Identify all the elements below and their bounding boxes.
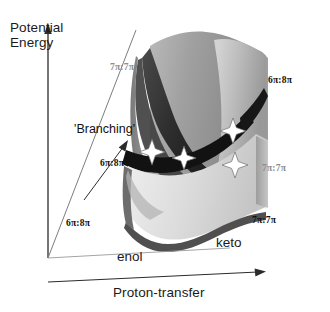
vertical-axis-label-line2: Energy: [10, 35, 63, 50]
state-label-6pi8pi-lower-left: 6π:8π: [66, 218, 90, 229]
horizontal-axis-line: [48, 272, 258, 282]
state-label-6pi8pi-upper-right: 6π:8π: [268, 75, 292, 86]
keto-label: keto: [216, 235, 242, 250]
vertical-axis-label: Potential Energy: [10, 20, 63, 50]
enol-label: enol: [117, 249, 143, 264]
state-label-6pi8pi-middle-left: 6π:8π: [100, 158, 124, 169]
horizontal-axis-arrowhead: [255, 269, 266, 277]
horizontal-axis-label: Proton-transfer: [113, 285, 205, 300]
state-label-7pi7pi-middle-right: 7π:7π: [262, 163, 286, 174]
branching-label: 'Branching': [74, 122, 135, 136]
state-label-7pi7pi-lower-right: 7π:7π: [252, 215, 276, 226]
potential-energy-surface-figure: Potential Energy Proton-transfer enol ke…: [0, 0, 330, 312]
branching-pointer-line: [84, 146, 124, 200]
state-label-7pi7pi-upper-left: 7π:7π: [110, 62, 134, 73]
branching-pointer-arrowhead: [119, 140, 128, 152]
vertical-axis-label-line1: Potential: [10, 20, 63, 35]
